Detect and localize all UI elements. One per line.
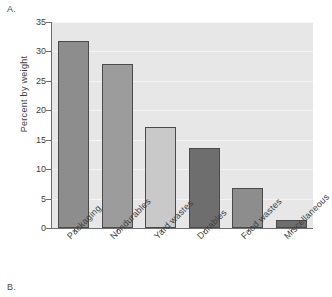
y-axis-line bbox=[51, 22, 52, 229]
y-tick-label: 5 bbox=[4, 194, 46, 204]
y-tick-mark bbox=[46, 199, 51, 200]
gridline bbox=[52, 81, 313, 82]
panel-label-b: B. bbox=[7, 282, 16, 292]
bar-nondurables[interactable] bbox=[102, 64, 133, 228]
y-tick-mark bbox=[46, 51, 51, 52]
y-tick-label: 10 bbox=[4, 164, 46, 174]
gridline bbox=[52, 22, 313, 23]
y-tick-mark bbox=[46, 22, 51, 23]
gridline bbox=[52, 169, 313, 170]
gridline bbox=[52, 110, 313, 111]
y-tick-mark bbox=[46, 169, 51, 170]
x-axis-line bbox=[51, 228, 313, 229]
y-tick-mark bbox=[46, 140, 51, 141]
y-tick-mark bbox=[46, 81, 51, 82]
gridline bbox=[52, 140, 313, 141]
y-tick-mark bbox=[46, 228, 51, 229]
gridline bbox=[52, 51, 313, 52]
plot-area bbox=[52, 22, 313, 228]
y-axis-title: Percent by weight bbox=[19, 24, 29, 164]
y-tick-label: 0 bbox=[4, 223, 46, 233]
bar-packaging[interactable] bbox=[58, 41, 89, 228]
y-tick-mark bbox=[46, 110, 51, 111]
